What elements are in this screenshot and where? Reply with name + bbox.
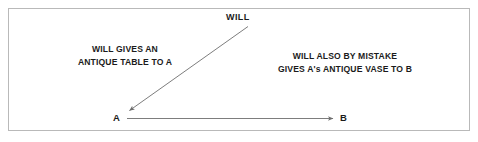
caption-will-gives-table: WILL GIVES AN ANTIQUE TABLE TO A	[65, 43, 185, 68]
node-label-will: WILL	[226, 11, 250, 24]
caption-right-line-1: WILL ALSO BY MISTAKE	[272, 50, 418, 63]
caption-will-gives-vase: WILL ALSO BY MISTAKE GIVES A's ANTIQUE V…	[272, 50, 418, 75]
caption-left-line-2: ANTIQUE TABLE TO A	[65, 56, 185, 69]
arrow-will-to-a	[130, 27, 249, 111]
caption-left-line-1: WILL GIVES AN	[65, 43, 185, 56]
caption-right-line-2: GIVES A's ANTIQUE VASE TO B	[272, 63, 418, 76]
node-label-a: A	[113, 112, 120, 125]
node-label-b: B	[340, 112, 347, 125]
diagram-canvas: WILL A B WILL GIVES AN ANTIQUE TABLE TO …	[0, 0, 478, 142]
